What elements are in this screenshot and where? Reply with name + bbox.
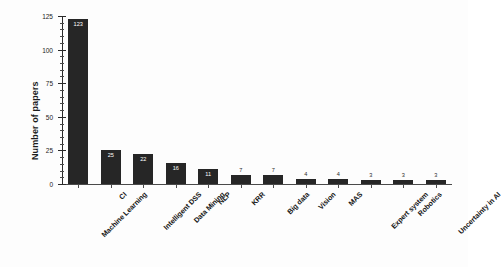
y-minor-tick	[60, 130, 64, 131]
bar-value-label: 3	[393, 172, 413, 179]
y-minor-tick	[60, 36, 64, 37]
y-tick-25: 25	[58, 150, 66, 151]
bar-value-label: 22	[133, 156, 153, 163]
y-minor-tick	[60, 110, 64, 111]
x-tick	[403, 184, 404, 188]
y-tick-label-0: 0	[49, 181, 53, 188]
bar-value-label: 3	[361, 172, 381, 179]
y-minor-tick	[60, 171, 64, 172]
y-tick-label-50: 50	[46, 113, 53, 120]
x-tick	[338, 184, 339, 188]
bar-machine-learning: 123	[68, 19, 88, 184]
bar-value-label: 11	[198, 171, 218, 178]
y-minor-tick	[60, 43, 64, 44]
y-tick-50: 50	[58, 117, 66, 118]
y-tick-75: 75	[58, 83, 66, 84]
x-tick	[78, 184, 79, 188]
y-minor-tick	[60, 157, 64, 158]
y-minor-tick	[60, 29, 64, 30]
bar-data-mining: 16	[166, 163, 186, 185]
x-axis-label-uncertainty-in-ai: Uncertainty in AI	[456, 190, 502, 236]
bar-rect	[263, 175, 283, 184]
y-axis-line	[62, 16, 63, 184]
bar-value-label: 7	[263, 167, 283, 174]
y-minor-tick	[60, 124, 64, 125]
y-minor-tick	[60, 63, 64, 64]
x-axis-label-big-data: Big data	[285, 190, 311, 216]
bar-value-label: 123	[68, 21, 88, 28]
y-minor-tick	[60, 70, 64, 71]
y-minor-tick	[60, 144, 64, 145]
x-tick	[436, 184, 437, 188]
x-axis-label-ci: CI	[117, 190, 128, 201]
y-axis-title: Number of papers	[30, 40, 44, 160]
y-tick-100: 100	[58, 50, 66, 51]
y-minor-tick	[60, 56, 64, 57]
y-minor-tick	[60, 137, 64, 138]
y-tick-label-100: 100	[42, 46, 53, 53]
x-tick	[111, 184, 112, 188]
y-minor-tick	[60, 97, 64, 98]
bar-krr: 7	[231, 175, 251, 184]
y-tick-125: 125	[58, 16, 66, 17]
bar-value-label: 4	[296, 171, 316, 178]
x-axis-label-vision: Vision	[316, 190, 337, 211]
x-tick	[143, 184, 144, 188]
y-tick-0: 0	[58, 184, 66, 185]
x-axis-label-mas: MAS	[347, 190, 365, 208]
x-axis-line	[58, 184, 452, 185]
bar-value-label: 7	[231, 167, 251, 174]
x-tick	[208, 184, 209, 188]
y-minor-tick	[60, 76, 64, 77]
x-tick	[241, 184, 242, 188]
bar-value-label: 16	[166, 165, 186, 172]
x-tick	[371, 184, 372, 188]
bar-value-label: 3	[426, 172, 446, 179]
bar-big-data: 7	[263, 175, 283, 184]
y-tick-label-125: 125	[42, 13, 53, 20]
bar-nlp: 11	[198, 169, 218, 184]
y-minor-tick	[60, 90, 64, 91]
x-tick	[176, 184, 177, 188]
bar-intelligent-dss: 22	[133, 154, 153, 184]
bar-value-label: 25	[101, 152, 121, 159]
y-minor-tick	[60, 164, 64, 165]
y-minor-tick	[60, 23, 64, 24]
bar-value-label: 4	[328, 171, 348, 178]
bar-rect	[231, 175, 251, 184]
y-tick-label-25: 25	[46, 147, 53, 154]
bar-ci: 25	[101, 150, 121, 184]
x-tick	[273, 184, 274, 188]
bar-rect	[68, 19, 88, 184]
y-minor-tick	[60, 103, 64, 104]
y-minor-tick	[60, 177, 64, 178]
x-tick	[306, 184, 307, 188]
x-axis-label-krr: KRR	[249, 190, 266, 207]
plot-area: 0255075100125 123252216117744333 Machine…	[62, 16, 452, 184]
x-axis-label-intelligent-dss: Intelligent DSS	[162, 190, 204, 232]
y-tick-label-75: 75	[46, 80, 53, 87]
